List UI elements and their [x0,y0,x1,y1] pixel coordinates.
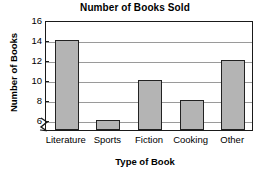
x-tick-label: Literature [45,134,87,146]
x-axis-title: Type of Book [36,156,254,167]
y-tick-label: 12 [22,56,42,66]
bar-other [221,60,245,130]
y-tick-label: 8 [22,96,42,106]
y-tick-mark [45,101,49,102]
x-tick-label: Other [211,134,253,146]
bar-chart: Number of Books Sold Number of Books 681… [0,0,270,176]
bars-group [46,22,252,130]
y-axis-title: Number of Books [8,13,19,133]
y-tick-mark [45,81,49,82]
bar-literature [55,40,79,130]
bar-slot [88,22,130,130]
bar-slot [129,22,171,130]
x-tick-label: Sports [87,134,129,146]
x-axis-tick-labels: LiteratureSportsFictionCookingOther [45,134,253,148]
y-tick-label: 10 [22,76,42,86]
axis-break-icon [38,117,52,133]
y-tick-mark [45,61,49,62]
y-axis-tick-labels: 6810121416 [20,0,42,176]
bar-fiction [138,80,162,130]
y-tick-label: 14 [22,36,42,46]
y-tick-mark [45,21,49,22]
bar-cooking [180,100,204,130]
bar-sports [96,120,120,130]
bar-slot [212,22,254,130]
y-tick-mark [45,121,49,122]
x-tick-label: Fiction [128,134,170,146]
bar-slot [46,22,88,130]
y-tick-label: 16 [22,16,42,26]
x-tick-label: Cooking [170,134,212,146]
bar-slot [171,22,213,130]
y-tick-mark [45,41,49,42]
plot-area [45,21,253,131]
